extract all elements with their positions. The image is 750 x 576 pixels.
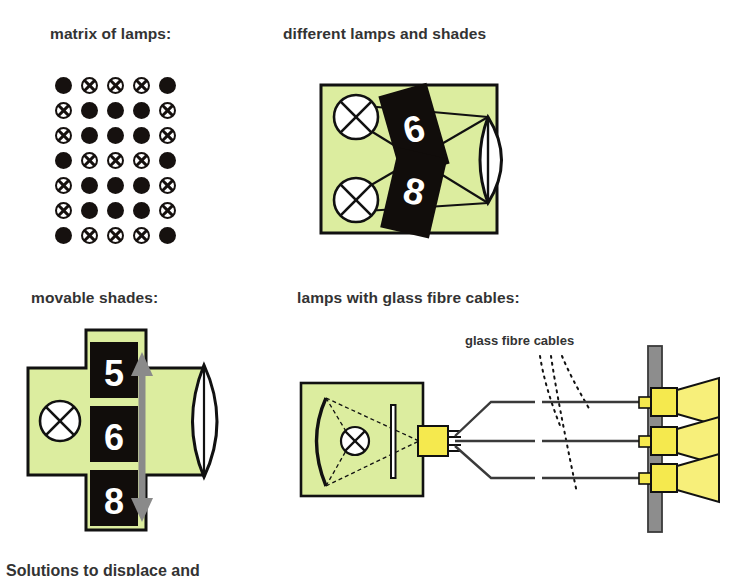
lamp-cell-7-5[interactable]	[154, 223, 180, 248]
lamp-cell-3-3[interactable]	[102, 123, 128, 148]
filled-lamp-icon	[55, 152, 72, 169]
crossed-lamp-icon	[81, 227, 98, 244]
lamp-cell-1-5[interactable]	[154, 73, 180, 98]
lamp-cell-1-3[interactable]	[102, 73, 128, 98]
light-beam-bottom	[677, 454, 719, 502]
filled-lamp-icon	[81, 102, 98, 119]
crossed-lamp-icon	[55, 102, 72, 119]
lamp-cell-5-1[interactable]	[50, 173, 76, 198]
shade-label-5: 5	[104, 353, 124, 394]
lamp-cell-4-4[interactable]	[128, 148, 154, 173]
lamp-cell-2-1[interactable]	[50, 98, 76, 123]
shade-label-6: 6	[104, 417, 124, 458]
filled-lamp-icon	[55, 77, 72, 94]
lamp-cell-5-4[interactable]	[128, 173, 154, 198]
fibre-coupler	[418, 426, 448, 456]
lamp-cell-6-1[interactable]	[50, 198, 76, 223]
lamp-cell-6-4[interactable]	[128, 198, 154, 223]
lamp-cell-4-3[interactable]	[102, 148, 128, 173]
lamp-cell-6-2[interactable]	[76, 198, 102, 223]
cable-top	[455, 402, 647, 436]
lamp-cell-2-5[interactable]	[154, 98, 180, 123]
lamp-cell-3-4[interactable]	[128, 123, 154, 148]
lamp-cell-5-2[interactable]	[76, 173, 102, 198]
lamp-cell-7-3[interactable]	[102, 223, 128, 248]
crossed-lamp-icon	[133, 227, 150, 244]
filled-lamp-icon	[159, 77, 176, 94]
shade-block-8[interactable]: 8	[90, 470, 138, 526]
filled-lamp-icon	[55, 227, 72, 244]
filled-lamp-icon	[107, 202, 124, 219]
lamp-symbol	[341, 427, 369, 455]
crossed-lamp-icon	[55, 202, 72, 219]
heading-lamps-with-glass-fibre-cables: lamps with glass fibre cables:	[297, 289, 520, 307]
filled-lamp-icon	[159, 152, 176, 169]
filled-lamp-icon	[133, 102, 150, 119]
shade-label-8: 8	[104, 481, 124, 522]
crossed-lamp-icon	[81, 77, 98, 94]
lamp-cell-3-5[interactable]	[154, 123, 180, 148]
heading-different-lamps-and-shades: different lamps and shades	[283, 25, 486, 43]
lamp-symbol-bottom	[334, 178, 378, 222]
crossed-lamp-icon	[107, 227, 124, 244]
lamp-cell-4-5[interactable]	[154, 148, 180, 173]
lamp-cell-6-3[interactable]	[102, 198, 128, 223]
lamp-cell-3-2[interactable]	[76, 123, 102, 148]
filled-lamp-icon	[159, 227, 176, 244]
lamp-symbol-top	[334, 95, 378, 139]
lamp-cell-7-4[interactable]	[128, 223, 154, 248]
filled-lamp-icon	[133, 202, 150, 219]
crossed-lamp-icon	[107, 152, 124, 169]
heading-matrix-of-lamps: matrix of lamps:	[50, 25, 171, 43]
filter-bar	[391, 405, 396, 478]
lamp-cell-5-5[interactable]	[154, 173, 180, 198]
crossed-lamp-icon	[81, 152, 98, 169]
lamp-cell-1-1[interactable]	[50, 73, 76, 98]
lamp-symbol	[40, 401, 80, 441]
lamp-cell-7-1[interactable]	[50, 223, 76, 248]
lamp-cell-3-1[interactable]	[50, 123, 76, 148]
lamp-cell-2-2[interactable]	[76, 98, 102, 123]
filled-lamp-icon	[81, 202, 98, 219]
crossed-lamp-icon	[55, 177, 72, 194]
filled-lamp-icon	[133, 177, 150, 194]
crossed-lamp-icon	[159, 177, 176, 194]
label-glass-fibre-cables: glass fibre cables	[465, 333, 574, 348]
shade-block-6[interactable]: 6	[90, 406, 138, 462]
lamp-cell-2-3[interactable]	[102, 98, 128, 123]
crossed-lamp-icon	[159, 127, 176, 144]
filled-lamp-icon	[107, 177, 124, 194]
crossed-lamp-icon	[133, 77, 150, 94]
lamp-cell-1-2[interactable]	[76, 73, 102, 98]
different-lamps-diagram: 6 8	[310, 70, 520, 245]
bottom-caption: Solutions to displace and	[6, 563, 200, 576]
shade-block-5[interactable]: 5	[90, 342, 138, 398]
crossed-lamp-icon	[159, 102, 176, 119]
movable-shades-diagram: 5 6 8	[18, 330, 258, 545]
lamp-cell-4-1[interactable]	[50, 148, 76, 173]
filled-lamp-icon	[81, 127, 98, 144]
lamp-cell-7-2[interactable]	[76, 223, 102, 248]
lamp-cell-6-5[interactable]	[154, 198, 180, 223]
lamp-matrix	[50, 73, 180, 248]
filled-lamp-icon	[133, 127, 150, 144]
filled-lamp-icon	[107, 102, 124, 119]
leader-lines	[540, 356, 590, 493]
lamp-cell-2-4[interactable]	[128, 98, 154, 123]
lamp-cell-5-3[interactable]	[102, 173, 128, 198]
crossed-lamp-icon	[107, 77, 124, 94]
crossed-lamp-icon	[159, 202, 176, 219]
crossed-lamp-icon	[55, 127, 72, 144]
lamp-cell-1-4[interactable]	[128, 73, 154, 98]
lamp-cell-4-2[interactable]	[76, 148, 102, 173]
crossed-lamp-icon	[133, 152, 150, 169]
filled-lamp-icon	[107, 127, 124, 144]
filled-lamp-icon	[81, 177, 98, 194]
cable-bottom	[455, 446, 647, 478]
heading-movable-shades: movable shades:	[31, 289, 158, 307]
glass-fibre-diagram: glass fibre cables	[295, 318, 750, 548]
